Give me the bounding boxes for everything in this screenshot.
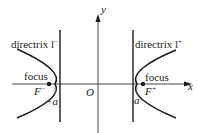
hyperbola-diagram: y x O directrix l− focus F− −a directrix… [0,0,198,133]
right-directrix-label: directrix l+ [135,38,182,50]
left-focus-name: F− [33,85,46,97]
right-focus-label: focus [145,71,169,83]
left-vertex-label: −a [45,95,58,107]
origin-label: O [86,86,94,98]
left-focus-label: focus [24,70,48,82]
left-focus-point [47,82,51,86]
y-axis-arrow-icon [96,14,101,22]
right-vertex-label: a [134,94,140,106]
x-axis-label: x [187,80,193,92]
y-axis-label: y [100,3,106,15]
left-directrix-label: directrix l− [11,38,58,50]
right-focus-name: F+ [144,85,157,97]
